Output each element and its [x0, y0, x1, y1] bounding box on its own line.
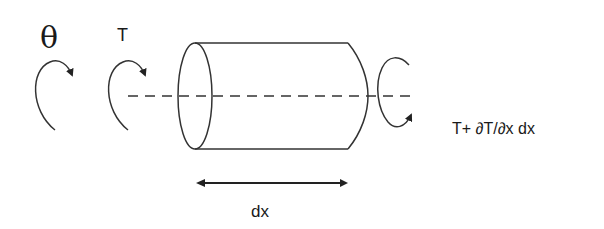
theta-label: θ	[40, 20, 58, 55]
torque-increment-label: T+ ∂T/∂x dx	[452, 120, 535, 138]
length-dimension-arrowhead-left-icon	[196, 179, 205, 187]
length-label: dx	[251, 202, 269, 222]
torque-rotation-arrow-icon	[109, 61, 145, 130]
torque-label: T	[117, 25, 128, 46]
torque-increment-rotation-arrow-icon	[378, 58, 411, 127]
theta-rotation-arrow-icon	[36, 61, 72, 130]
torsion-diagram	[0, 0, 604, 229]
